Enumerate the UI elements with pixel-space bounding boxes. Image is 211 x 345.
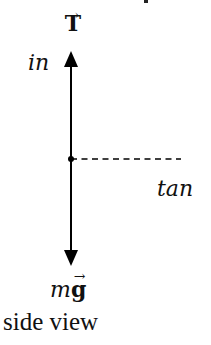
- inward-direction-label: in: [28, 52, 49, 74]
- tension-vector-label: → T: [62, 12, 84, 34]
- weight-arrowhead-icon: [64, 250, 78, 266]
- vector-arrow-icon: →: [62, 8, 84, 22]
- weight-vector-label: m→g: [50, 278, 86, 301]
- mass-symbol: m: [50, 277, 71, 302]
- diagram-caption: side view: [3, 309, 98, 334]
- tension-arrowhead-icon: [64, 51, 78, 67]
- center-point-dot: [68, 156, 74, 162]
- tangential-direction-label: tan: [157, 178, 193, 200]
- vector-arrow-icon: →: [69, 269, 90, 283]
- gravity-vector-symbol: →g: [71, 278, 86, 300]
